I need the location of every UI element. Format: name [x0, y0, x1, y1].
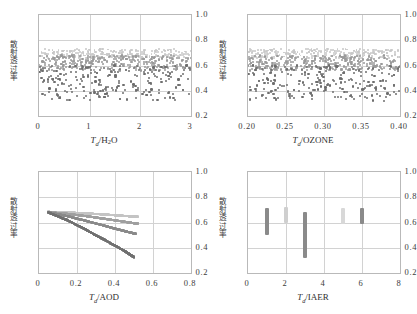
- scatter-point: [303, 84, 305, 86]
- scatter-point: [75, 71, 77, 73]
- gridline-vertical: [362, 15, 363, 116]
- scatter-point: [103, 96, 105, 98]
- scatter-point: [261, 63, 263, 65]
- scatter-point: [71, 54, 73, 56]
- y-tick-label: 1.0: [384, 167, 417, 176]
- scatter-point: [87, 50, 89, 52]
- scatter-point: [319, 82, 321, 84]
- scatter-point: [47, 81, 49, 83]
- gridline-vertical: [324, 172, 325, 273]
- scatter-point: [167, 92, 169, 94]
- scatter-point: [308, 87, 310, 89]
- scatter-point: [104, 93, 106, 95]
- scatter-point: [173, 55, 175, 57]
- scatter-point: [125, 58, 127, 60]
- scatter-point: [81, 58, 83, 60]
- x-tick-label: 0.6: [146, 279, 158, 288]
- x-tick-label: 0: [36, 279, 41, 288]
- scatter-point: [344, 81, 346, 83]
- scatter-point: [113, 50, 115, 52]
- scatter-point: [266, 54, 268, 56]
- scatter-point: [286, 84, 288, 86]
- y-tick-label: 0.8: [175, 192, 208, 201]
- scatter-point: [178, 57, 180, 59]
- x-tick-label: 1: [86, 122, 91, 131]
- scatter-point: [307, 77, 309, 79]
- scatter-point: [61, 82, 63, 84]
- scatter-point: [355, 82, 357, 84]
- scatter-point: [325, 52, 327, 54]
- scatter-point: [273, 57, 275, 59]
- scatter-point: [252, 61, 254, 63]
- y-tick-label: 0.4: [175, 243, 208, 252]
- y-axis-label: 散射透过率: [9, 41, 19, 83]
- scatter-point: [178, 51, 180, 53]
- y-tick-label: 0.2: [175, 268, 208, 277]
- scatter-point: [301, 73, 303, 75]
- scatter-point: [82, 86, 84, 88]
- scatter-point: [112, 89, 114, 91]
- scatter-point: [93, 91, 95, 93]
- scatter-point: [311, 66, 313, 68]
- scatter-point: [154, 62, 156, 64]
- scatter-point: [379, 80, 381, 82]
- scatter-point: [38, 71, 40, 73]
- scatter-point: [372, 81, 374, 83]
- scatter-point: [327, 83, 329, 85]
- scatter-point: [44, 67, 46, 69]
- scatter-point: [335, 56, 337, 58]
- x-tick-label: 8: [397, 279, 402, 288]
- scatter-point: [372, 99, 374, 101]
- scatter-point: [266, 65, 268, 67]
- scatter-point: [65, 66, 67, 68]
- x-label-name: /AOD: [97, 292, 119, 302]
- scatter-point: [385, 49, 387, 51]
- scatter-point: [150, 88, 152, 90]
- scatter-point: [44, 48, 46, 50]
- scatter-point: [166, 66, 168, 68]
- scatter-point: [58, 49, 60, 51]
- scatter-point: [161, 51, 163, 53]
- scatter-point: [357, 51, 359, 53]
- scatter-point: [143, 49, 145, 51]
- x-axis-label-aod: Td/AOD: [0, 292, 208, 306]
- scatter-point: [306, 69, 308, 71]
- scatter-point: [343, 65, 345, 67]
- scatter-point: [94, 51, 96, 53]
- scatter-point: [62, 61, 64, 63]
- scatter-point: [132, 86, 134, 88]
- scatter-point: [360, 75, 362, 77]
- scatter-point: [71, 91, 73, 93]
- y-tick-label: 0.8: [384, 192, 417, 201]
- y-tick-label: 0.2: [175, 111, 208, 120]
- scatter-point: [344, 60, 346, 62]
- scatter-point: [298, 80, 300, 82]
- x-tick-label: 4: [321, 279, 326, 288]
- scatter-point: [359, 83, 361, 85]
- scatter-point: [160, 81, 162, 83]
- scatter-point: [315, 81, 317, 83]
- scatter-point: [270, 69, 272, 71]
- y-tick-label: 0.2: [384, 268, 417, 277]
- scatter-point: [263, 73, 265, 75]
- scatter-point: [119, 98, 121, 100]
- scatter-point: [272, 82, 274, 84]
- scatter-point: [289, 97, 291, 99]
- scatter-point: [322, 76, 324, 78]
- scatter-point: [83, 97, 85, 99]
- scatter-point: [61, 50, 63, 52]
- scatter-point: [311, 62, 313, 64]
- scatter-point: [290, 68, 292, 70]
- vertical-bar: [360, 208, 363, 225]
- scatter-point: [267, 82, 269, 84]
- x-tick-label: 6: [359, 279, 364, 288]
- scatter-point: [338, 50, 340, 52]
- curve-marker: [137, 222, 140, 225]
- scatter-point: [99, 50, 101, 52]
- scatter-point: [303, 93, 305, 95]
- scatter-point: [95, 66, 97, 68]
- vertical-bar: [303, 212, 306, 258]
- scatter-point: [247, 73, 249, 75]
- gridline-vertical: [77, 172, 78, 273]
- scatter-point: [122, 84, 124, 86]
